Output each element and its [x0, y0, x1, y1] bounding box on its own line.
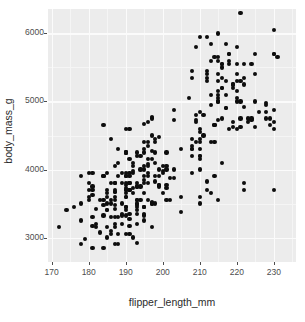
data-point — [101, 246, 105, 250]
data-point — [142, 218, 146, 222]
data-point — [272, 108, 276, 112]
data-point — [164, 198, 168, 202]
data-point — [179, 195, 183, 199]
data-point — [205, 79, 209, 83]
x-tick-mark — [126, 262, 127, 265]
data-point — [120, 222, 124, 226]
x-tick-mark — [89, 262, 90, 265]
x-tick-mark — [237, 262, 238, 265]
data-point — [205, 179, 209, 183]
data-point — [124, 150, 128, 154]
gridline-major-vertical — [274, 9, 275, 262]
data-point — [164, 164, 168, 168]
data-point — [131, 161, 135, 165]
data-point — [87, 198, 91, 202]
data-point — [198, 201, 202, 205]
data-point — [172, 108, 176, 112]
data-point — [105, 191, 109, 195]
data-point — [224, 42, 228, 46]
data-point — [272, 120, 276, 124]
gridline-minor-horizontal — [48, 136, 296, 137]
data-point — [131, 235, 135, 239]
data-point — [172, 176, 176, 180]
data-point — [209, 103, 213, 107]
data-point — [205, 35, 209, 39]
data-point — [257, 110, 261, 114]
data-point — [235, 72, 239, 76]
x-tick-label: 200 — [148, 267, 178, 277]
gridline-major-vertical — [52, 9, 53, 262]
data-point — [142, 205, 146, 209]
data-point — [231, 120, 235, 124]
data-point — [105, 208, 109, 212]
data-point — [146, 144, 150, 148]
data-point — [131, 191, 135, 195]
data-point — [124, 183, 128, 187]
x-tick-mark — [200, 262, 201, 265]
y-axis-title-text: body_mass_g — [2, 98, 14, 163]
data-point — [90, 246, 94, 250]
data-point — [113, 203, 117, 207]
y-axis-title: body_mass_g — [0, 0, 16, 262]
data-point — [150, 225, 154, 229]
data-point — [168, 198, 172, 202]
x-tick-label: 210 — [185, 267, 215, 277]
y-tick-label: 6000 — [18, 28, 44, 37]
gridline-major-horizontal — [48, 101, 296, 102]
data-point — [249, 62, 253, 66]
data-point — [90, 215, 94, 219]
data-point — [275, 55, 279, 59]
data-point — [127, 127, 131, 131]
data-point — [90, 224, 94, 228]
data-point — [138, 184, 142, 188]
data-point — [94, 207, 98, 211]
data-point — [242, 188, 246, 192]
y-tick-label: 4000 — [18, 165, 44, 174]
data-point — [242, 181, 246, 185]
data-point — [113, 181, 117, 185]
data-point — [190, 76, 194, 80]
data-point — [146, 164, 150, 168]
y-tick-label: 3000 — [18, 233, 44, 242]
data-point — [272, 127, 276, 131]
data-point — [109, 137, 113, 141]
data-point — [242, 105, 246, 109]
data-point — [79, 201, 83, 205]
data-point — [231, 82, 235, 86]
data-point — [90, 188, 94, 192]
data-point — [146, 120, 150, 124]
x-tick-label: 190 — [111, 267, 141, 277]
data-point — [127, 181, 131, 185]
data-point — [235, 62, 239, 66]
data-point — [172, 167, 176, 171]
data-point — [198, 195, 202, 199]
data-point — [116, 242, 120, 246]
data-point — [138, 198, 142, 202]
data-point — [212, 123, 216, 127]
data-point — [238, 116, 242, 120]
data-point — [242, 76, 246, 80]
data-point — [135, 212, 139, 216]
data-point — [79, 242, 83, 246]
data-point — [164, 167, 168, 171]
data-point — [116, 147, 120, 151]
data-point — [153, 201, 157, 205]
data-point — [224, 106, 228, 110]
x-tick-mark — [163, 262, 164, 265]
data-point — [264, 110, 268, 114]
data-point — [220, 86, 224, 90]
data-point — [220, 116, 224, 120]
data-point — [105, 171, 109, 175]
data-point — [101, 174, 105, 178]
y-tick-mark — [44, 33, 47, 34]
data-point — [127, 212, 131, 216]
x-tick-label: 170 — [37, 267, 67, 277]
data-point — [138, 167, 142, 171]
data-point — [127, 224, 131, 228]
data-point — [253, 52, 257, 56]
y-axis-ticks: 3000400050006000 — [14, 0, 44, 262]
data-point — [157, 174, 161, 178]
data-point — [212, 174, 216, 178]
data-point — [179, 147, 183, 151]
y-tick-mark — [44, 101, 47, 102]
